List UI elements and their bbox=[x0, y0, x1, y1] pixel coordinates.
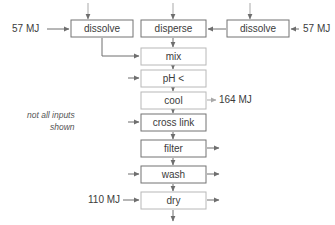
energy-label-dissolve-left: 57 MJ bbox=[12, 23, 39, 34]
node-ph-label: pH < bbox=[163, 73, 185, 84]
node-disperse[interactable]: disperse bbox=[141, 20, 206, 37]
node-cool-label: cool bbox=[164, 95, 182, 106]
node-cool[interactable]: cool bbox=[141, 92, 206, 109]
energy-label-dissolve-right: 57 MJ bbox=[303, 23, 330, 34]
connector-dissolve-left-to-mix bbox=[102, 38, 139, 56]
annotation-note-line1: not all inputs bbox=[27, 110, 75, 120]
node-mix[interactable]: mix bbox=[141, 48, 206, 65]
node-cross-link-label: cross link bbox=[153, 117, 196, 128]
node-mix-label: mix bbox=[166, 51, 182, 62]
flow-diagram-canvas: dissolve dissolve disperse mix pH < cool bbox=[0, 0, 335, 225]
process-flow-diagram: dissolve dissolve disperse mix pH < cool bbox=[0, 0, 335, 225]
node-dry-label: dry bbox=[167, 195, 181, 206]
node-dissolve-left[interactable]: dissolve bbox=[71, 20, 133, 37]
node-filter[interactable]: filter bbox=[141, 140, 206, 157]
energy-label-cool: 164 MJ bbox=[219, 94, 252, 105]
node-layer: dissolve dissolve disperse mix pH < cool bbox=[71, 20, 289, 209]
node-dissolve-left-label: dissolve bbox=[84, 23, 121, 34]
node-wash[interactable]: wash bbox=[141, 166, 206, 183]
energy-label-dry: 110 MJ bbox=[88, 194, 120, 205]
node-dissolve-right-label: dissolve bbox=[240, 23, 277, 34]
node-cross-link[interactable]: cross link bbox=[141, 114, 206, 131]
node-ph[interactable]: pH < bbox=[141, 70, 206, 87]
node-dry[interactable]: dry bbox=[141, 192, 206, 209]
node-dissolve-right[interactable]: dissolve bbox=[227, 20, 289, 37]
annotation-note-line2: shown bbox=[50, 122, 75, 132]
annotation-note: not all inputs shown bbox=[27, 110, 75, 132]
node-disperse-label: disperse bbox=[155, 23, 193, 34]
node-filter-label: filter bbox=[164, 143, 184, 154]
node-wash-label: wash bbox=[161, 169, 185, 180]
